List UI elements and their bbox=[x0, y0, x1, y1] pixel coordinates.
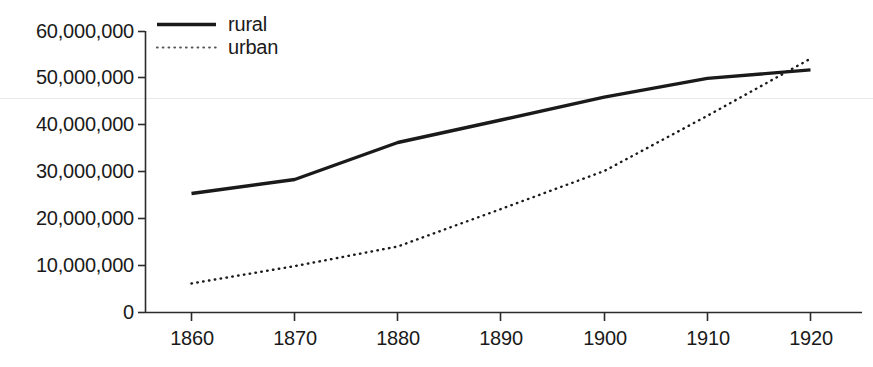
x-tick-label-1860: 1860 bbox=[147, 327, 237, 350]
y-tick-label-20000000: 20,000,000 bbox=[6, 207, 134, 230]
x-tick-label-1910: 1910 bbox=[663, 327, 753, 350]
x-tick-label-1920: 1920 bbox=[766, 327, 856, 350]
series-line-rural bbox=[192, 70, 811, 194]
x-axis-ticks bbox=[192, 313, 811, 322]
x-tick-label-1870: 1870 bbox=[250, 327, 340, 350]
y-tick-label-10000000: 10,000,000 bbox=[6, 254, 134, 277]
legend-swatches bbox=[157, 25, 216, 48]
line-chart: 0 10,000,000 20,000,000 30,000,000 40,00… bbox=[0, 0, 873, 367]
y-axis-ticks bbox=[138, 32, 145, 313]
series-line-urban bbox=[192, 59, 811, 284]
legend-label-rural: rural bbox=[228, 13, 267, 36]
y-tick-label-0: 0 bbox=[6, 301, 134, 324]
x-tick-label-1880: 1880 bbox=[353, 327, 443, 350]
y-tick-label-40000000: 40,000,000 bbox=[6, 113, 134, 136]
y-tick-label-30000000: 30,000,000 bbox=[6, 160, 134, 183]
legend-label-urban: urban bbox=[228, 36, 278, 59]
x-tick-label-1890: 1890 bbox=[456, 327, 546, 350]
series-layer bbox=[192, 59, 811, 284]
y-tick-label-50000000: 50,000,000 bbox=[6, 66, 134, 89]
x-tick-label-1900: 1900 bbox=[560, 327, 650, 350]
y-tick-label-60000000: 60,000,000 bbox=[6, 20, 134, 43]
